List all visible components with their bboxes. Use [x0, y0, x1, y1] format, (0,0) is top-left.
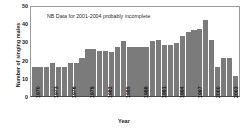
bar — [168, 45, 173, 96]
bar — [209, 40, 214, 96]
y-tick-label: 40 — [10, 21, 28, 27]
x-tick-label: 1988 — [143, 86, 149, 98]
bar — [79, 58, 84, 96]
y-tick-label: 50 — [10, 3, 28, 9]
bar — [97, 51, 102, 97]
plot-area — [30, 6, 240, 97]
x-tick-label: 2000 — [215, 86, 221, 98]
x-tick-label: 1982 — [107, 86, 113, 98]
x-tick-label: 2003 — [233, 86, 239, 98]
bar — [44, 67, 49, 96]
y-tick-label: 10 — [10, 76, 28, 82]
y-tick-label: 30 — [10, 39, 28, 45]
x-tick-label: 1997 — [197, 86, 203, 98]
bar-series — [31, 7, 239, 96]
x-tick-label: 1979 — [89, 86, 95, 98]
y-axis-tick-labels: 01020304050 — [10, 0, 28, 128]
bar — [227, 58, 232, 96]
x-tick-label: 1970 — [35, 86, 41, 98]
bar-chart: Number of singing males 01020304050 NB D… — [0, 0, 248, 128]
x-tick-label: 1976 — [71, 86, 77, 98]
x-tick-label: 1991 — [161, 86, 167, 98]
bar — [191, 30, 196, 96]
bar — [203, 20, 208, 96]
bar — [186, 32, 191, 96]
y-tick-label: 0 — [10, 94, 28, 100]
bar — [115, 47, 120, 96]
x-axis-tick-labels: 1970197319761979198219851988199119941997… — [30, 98, 240, 118]
bar — [221, 58, 226, 96]
x-tick-label: 1973 — [53, 86, 59, 98]
bar — [62, 67, 67, 96]
x-axis-title: Year — [0, 118, 248, 124]
x-tick-label: 1994 — [179, 86, 185, 98]
chart-annotation: NB Data for 2001-2004 probably incomplet… — [47, 13, 150, 19]
y-tick-label: 20 — [10, 58, 28, 64]
bar — [132, 47, 137, 96]
x-tick-label: 1985 — [125, 86, 131, 98]
bar — [150, 41, 155, 96]
